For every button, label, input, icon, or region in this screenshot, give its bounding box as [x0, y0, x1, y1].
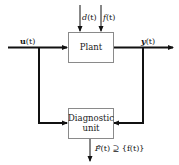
disturbance-label: d(t): [82, 14, 97, 22]
plant-label: Plant: [80, 43, 102, 53]
output-signal-label: y(t): [141, 37, 155, 46]
input-signal-label: u(t): [20, 37, 35, 46]
diagnosis-label: F̂(t) ⊇ {f(t)}: [95, 145, 144, 153]
input-branch-line: [39, 48, 67, 124]
block-diagram-canvas: [0, 0, 179, 165]
diagnostic-label-line2: unit: [82, 124, 99, 134]
plant-block: Plant: [68, 32, 114, 63]
output-branch-line: [114, 48, 143, 124]
fault-label: f(t): [103, 14, 115, 22]
diagnostic-unit-block: Diagnostic unit: [68, 108, 114, 139]
